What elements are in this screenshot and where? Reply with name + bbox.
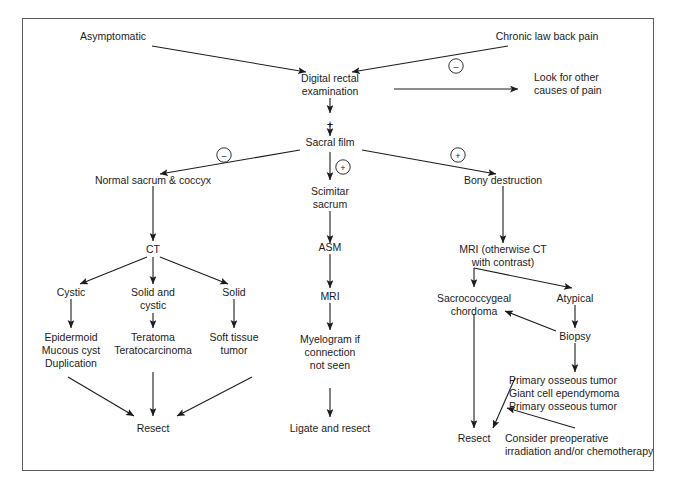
- node-primary-osseous-line3: Primary osseous tumor: [509, 400, 617, 412]
- node-ligate-and-resect: Ligate and resect: [290, 422, 371, 434]
- node-myelogram-line2: connection: [305, 346, 356, 358]
- sign-minus-sacral-left: –: [217, 148, 231, 162]
- edge-soft-tissue-to-resect-left: [177, 377, 252, 416]
- edge-asymptomatic-to-dre: [152, 46, 306, 72]
- sign-plus-dre-sacral: +: [327, 118, 333, 130]
- node-resect-left: Resect: [137, 422, 170, 434]
- node-teratoma-line2: Teratocarcinoma: [114, 344, 192, 356]
- edge-ct-to-cystic: [80, 257, 147, 284]
- node-atypical: Atypical: [557, 292, 594, 304]
- node-primary-osseous-line1: Primary osseous tumor: [509, 374, 617, 386]
- node-resect-right: Resect: [458, 432, 491, 444]
- node-consider-preop-line2: irradiation and/or chemotherapy: [505, 445, 654, 457]
- node-myelogram-line3: not seen: [310, 359, 350, 371]
- node-solid-and-line1: Solid and: [131, 286, 175, 298]
- edge-chronic-pain-to-dre: [352, 46, 508, 72]
- node-scimitar-line1: Scimitar: [311, 185, 349, 197]
- edge-ct-to-solid: [160, 257, 228, 284]
- node-teratoma-line1: Teratoma: [131, 331, 175, 343]
- node-asymptomatic: Asymptomatic: [80, 30, 146, 42]
- sign-minus-sacral-left-label: –: [221, 151, 226, 161]
- edge-sacral-to-normal-sacrum: [160, 150, 300, 174]
- node-solid: Solid: [222, 286, 246, 298]
- node-normal-sacrum: Normal sacrum & coccyx: [95, 174, 212, 186]
- node-look-other-line2: causes of pain: [534, 84, 602, 96]
- node-epidermoid-line1: Epidermoid: [44, 331, 97, 343]
- node-primary-osseous-line2: Giant cell ependymoma: [509, 387, 619, 399]
- node-sacral-film: Sacral film: [305, 136, 354, 148]
- node-digital-rectal-line2: examination: [302, 85, 359, 97]
- sign-plus-sacral-mid-label: +: [340, 163, 345, 173]
- node-cystic: Cystic: [57, 286, 86, 298]
- sign-plus-sacral-mid: +: [336, 160, 350, 174]
- node-scimitar-line2: sacrum: [313, 198, 348, 210]
- node-digital-rectal-line1: Digital rectal: [301, 72, 359, 84]
- sign-minus-dre-look-other: –: [449, 59, 463, 73]
- sign-plus-sacral-right: +: [451, 148, 465, 162]
- node-myelogram-line1: Myelogram if: [300, 333, 360, 345]
- node-ct: CT: [146, 243, 161, 255]
- node-consider-preop-line1: Consider preoperative: [505, 432, 608, 444]
- edge-biopsy-to-chordoma: [505, 311, 556, 331]
- node-asm: ASM: [319, 241, 342, 253]
- edge-epidermoid-to-resect-left: [68, 377, 134, 416]
- node-epidermoid-line3: Duplication: [45, 357, 97, 369]
- node-solid-and-line2: cystic: [140, 299, 166, 311]
- sign-plus-sacral-right-label: +: [455, 151, 460, 161]
- node-chronic-back-pain: Chronic law back pain: [496, 30, 599, 42]
- node-mri: MRI: [320, 290, 339, 302]
- figure-canvas: – + – + + Asymptomatic Chronic law back …: [0, 0, 675, 489]
- edge-sacral-to-bony-destruction: [362, 150, 496, 174]
- flowchart-svg: – + – + + Asymptomatic Chronic law back …: [0, 0, 675, 489]
- node-look-other-line1: Look for other: [534, 71, 599, 83]
- node-mri-contrast-line1: MRI (otherwise CT: [459, 243, 547, 255]
- node-mri-contrast-line2: with contrast): [471, 256, 534, 268]
- node-sacrococcygeal-line1: Sacrococcygeal: [437, 292, 511, 304]
- node-sacrococcygeal-line2: chordoma: [451, 305, 498, 317]
- node-epidermoid-line2: Mucous cyst: [42, 344, 100, 356]
- edge-mri-contrast-to-atypical: [474, 268, 572, 288]
- node-bony-destruction: Bony destruction: [464, 174, 542, 186]
- node-soft-tissue-line1: Soft tissue: [209, 331, 258, 343]
- node-soft-tissue-line2: tumor: [221, 344, 248, 356]
- node-biopsy: Biopsy: [559, 330, 591, 342]
- sign-minus-top-label: –: [453, 62, 458, 72]
